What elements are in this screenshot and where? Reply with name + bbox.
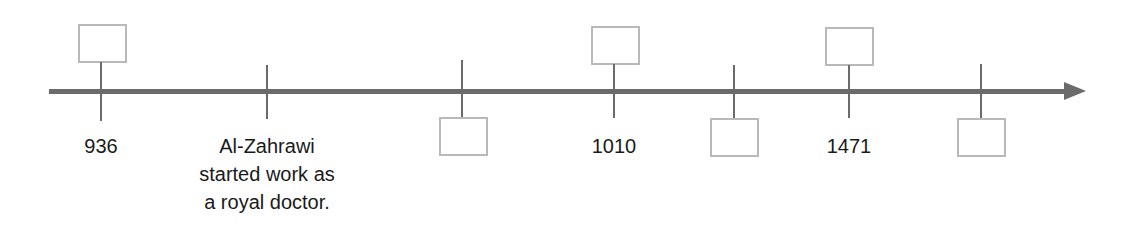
tick-mark: [733, 65, 735, 118]
event-label-936: 936: [84, 132, 117, 160]
tick-mark: [613, 64, 615, 118]
answer-box-below[interactable]: [957, 118, 1006, 157]
tick-mark: [848, 65, 850, 118]
tick-mark: [266, 65, 268, 119]
tick-mark: [461, 60, 463, 117]
arrow-right-icon: [1064, 82, 1086, 100]
answer-box-below[interactable]: [710, 118, 759, 157]
tick-mark: [100, 62, 102, 121]
timeline-axis: [49, 89, 1066, 94]
answer-box-above-936[interactable]: [78, 24, 127, 63]
event-label-1010: 1010: [592, 132, 637, 160]
event-label-al-zahrawi: Al-Zahrawi started work as a royal docto…: [199, 132, 335, 216]
label-line: Al-Zahrawi: [199, 132, 335, 160]
answer-box-above-1471[interactable]: [825, 27, 874, 66]
answer-box-below[interactable]: [439, 117, 488, 156]
answer-box-above-1010[interactable]: [591, 26, 640, 65]
label-line: started work as: [199, 160, 335, 188]
tick-mark: [980, 64, 982, 118]
event-label-1471: 1471: [827, 132, 872, 160]
label-line: a royal doctor.: [199, 188, 335, 216]
